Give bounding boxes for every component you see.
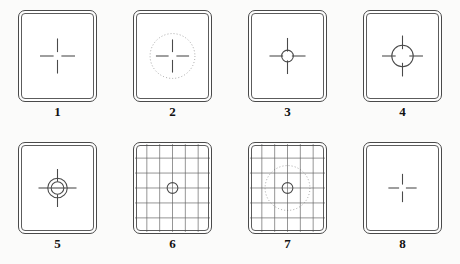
panel-5: 5 [0, 132, 115, 264]
crosshair-arms [156, 39, 189, 72]
screen-frame-4 [363, 10, 442, 102]
screen-frame-6 [133, 142, 212, 234]
screen-frame-2 [133, 10, 212, 102]
reticle-small-microprism-circle [249, 11, 326, 101]
panel-4: 4 [345, 0, 460, 132]
panel-3: 3 [230, 0, 345, 132]
panel-7: 7 [230, 132, 345, 264]
screen-frame-3 [248, 10, 327, 102]
crosshair-arms [382, 36, 423, 77]
panel-1: 1 [0, 0, 115, 132]
screen-frame-8 [363, 142, 442, 234]
focusing-screen-figure: 12345678 [0, 0, 460, 264]
crosshair-arms [388, 174, 416, 202]
panel-number-label: 8 [345, 236, 460, 252]
reticle-fine-matte-crosshair [364, 143, 441, 233]
panel-number-label: 6 [115, 236, 230, 252]
panel-number-label: 2 [115, 104, 230, 120]
panel-2: 2 [115, 0, 230, 132]
reticle-plain-matte-crosshair [19, 11, 96, 101]
reticle-grid-screen-with-circle [134, 143, 211, 233]
reticle-split-image-double-circle [19, 143, 96, 233]
panel-number-label: 1 [0, 104, 115, 120]
grid-lines [250, 144, 325, 232]
crosshair-arms [40, 38, 75, 73]
panel-number-label: 7 [230, 236, 345, 252]
screen-frame-1 [18, 10, 97, 102]
reticle-dotted-circle-crosshair [134, 11, 211, 101]
reticle-grid-screen-dotted-circle [249, 143, 326, 233]
panel-number-label: 3 [230, 104, 345, 120]
screen-frame-5 [18, 142, 97, 234]
panel-8: 8 [345, 132, 460, 264]
screen-frame-7 [248, 142, 327, 234]
center-circle [282, 50, 294, 62]
reticle-large-microprism-circle [364, 11, 441, 101]
panel-number-label: 5 [0, 236, 115, 252]
grid-lines [135, 144, 210, 232]
panel-6: 6 [115, 132, 230, 264]
crosshair-arms [269, 38, 305, 74]
panel-number-label: 4 [345, 104, 460, 120]
